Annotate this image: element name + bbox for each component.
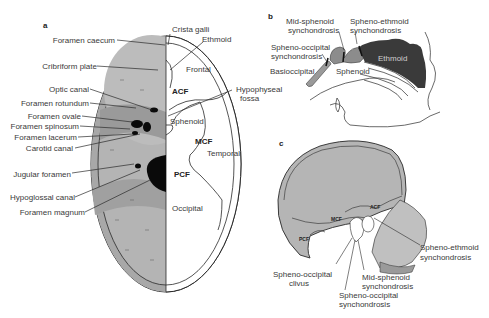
sella-white xyxy=(362,216,374,232)
label-spheno-ethmoid-c-2: synchondrosis xyxy=(420,253,471,262)
label-spheno-occipital-c-1: Spheno-occipital xyxy=(339,291,398,300)
label-spheno-occipital-c-2: synchondrosis xyxy=(339,300,390,309)
label-spheno-ethmoid-c-1: Spheno-ethmoid xyxy=(420,243,479,252)
label-spheno-occipital-clivus-2: clivus xyxy=(289,279,309,288)
label-spheno-occipital-clivus-1: Spheno-occipital xyxy=(273,270,332,279)
panel-c-lateral-skull-illustration xyxy=(0,0,489,318)
label-mid-sphenoid-c-1: Mid-sphenoid xyxy=(362,273,410,282)
panel-c-letter: c xyxy=(279,139,283,148)
label-acf-c: ACF xyxy=(370,203,380,212)
label-mid-sphenoid-c-2: synchondrosis xyxy=(362,282,413,291)
label-pcf-c: PCF xyxy=(299,235,309,244)
label-mcf-c: MCF xyxy=(331,215,342,224)
